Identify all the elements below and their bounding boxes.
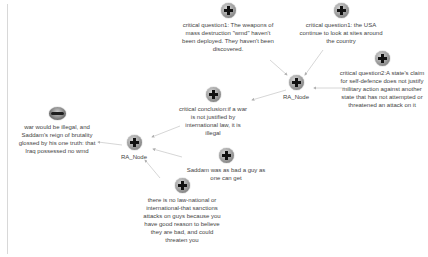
node-label: there is no law-national or internationa…	[142, 196, 222, 244]
node-no-law[interactable]: there is no law-national or internationa…	[142, 178, 222, 244]
edge-law-ra2	[145, 160, 160, 178]
node-label: RA_Node	[114, 153, 154, 161]
plus-icon[interactable]	[127, 135, 142, 150]
plus-icon[interactable]	[175, 178, 190, 193]
node-critical-conclusion[interactable]: critical conclusion:if a war is not just…	[177, 87, 249, 137]
node-critical-question-2[interactable]: critical question2:A state's claim for s…	[336, 51, 428, 109]
plus-icon[interactable]	[206, 87, 221, 102]
node-saddam[interactable]: Saddam was as bad a guy as one can get	[184, 148, 268, 182]
node-ra-1[interactable]: RA_Node	[276, 75, 316, 101]
plus-icon[interactable]	[219, 148, 234, 163]
ellipse-icon[interactable]	[49, 107, 66, 120]
node-label: critical question1: the USA continue to …	[295, 21, 387, 45]
node-label: RA_Node	[276, 93, 316, 101]
node-critical-question-usa[interactable]: critical question1: the USA continue to …	[295, 3, 387, 45]
node-war-illegal[interactable]: war would be illegal, and Saddam's reign…	[17, 107, 97, 155]
edge-cq1-ra1	[270, 60, 287, 75]
edge-saddam-ra2	[153, 149, 182, 157]
node-label: critical question1: The weapons of mass …	[179, 21, 277, 53]
node-label: critical conclusion:if a war is not just…	[177, 105, 249, 137]
plus-icon[interactable]	[375, 51, 390, 66]
plus-icon[interactable]	[289, 75, 304, 90]
plus-icon[interactable]	[221, 3, 236, 18]
node-label: critical question2:A state's claim for s…	[336, 69, 428, 109]
plus-icon[interactable]	[334, 3, 349, 18]
node-ra-2[interactable]: RA_Node	[114, 135, 154, 161]
node-label: war would be illegal, and Saddam's reign…	[17, 123, 97, 155]
node-critical-question-1[interactable]: critical question1: The weapons of mass …	[179, 3, 277, 53]
edge-cquSA-ra1	[305, 50, 323, 75]
edge-cc-ra2	[152, 126, 180, 137]
